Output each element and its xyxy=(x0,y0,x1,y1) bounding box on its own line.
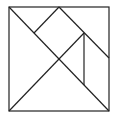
tangram-segments xyxy=(9,7,109,111)
tangram-svg xyxy=(0,0,122,121)
anti-diagonal-line xyxy=(9,33,84,111)
top-left-edge-line xyxy=(34,7,59,33)
tangram-diagram xyxy=(0,0,122,121)
